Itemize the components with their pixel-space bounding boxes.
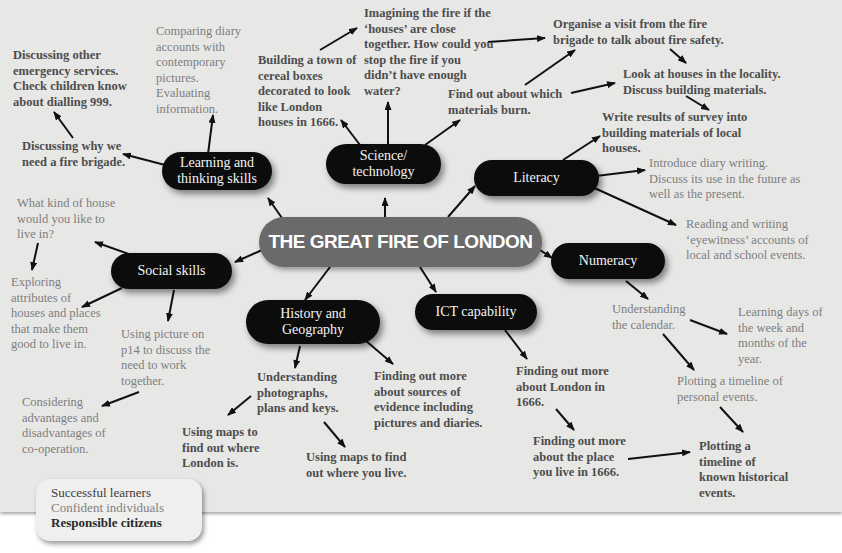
node-learning-thinking: Learning and thinking skills [162,152,272,190]
note-eyewitness: Reading and writing ‘eyewitness’ account… [686,217,811,264]
note-cooperation: Considering advantages and disadvantages… [22,395,122,457]
node-label: Learning and thinking skills [169,155,265,187]
node-ict-capability: ICT capability [415,294,537,330]
note-organise-visit: Organise a visit from the fire brigade t… [553,17,738,48]
note-sources-evidence: Finding out more about sources of eviden… [374,369,489,431]
legend-confident-individuals: Confident individuals [51,500,202,515]
note-write-results: Write results of survey into building ma… [602,110,752,157]
node-label: Science/ technology [344,148,424,180]
node-label: Numeracy [579,253,637,269]
node-label: Literacy [513,170,560,186]
note-cereal-boxes: Building a town of cereal boxes decorate… [258,53,358,131]
note-picture-p14: Using picture on p14 to discuss the need… [121,327,217,389]
node-label: Social skills [137,263,205,279]
node-history-geography: History and Geography [246,300,380,344]
central-topic-label: THE GREAT FIRE OF LONDON [268,231,532,253]
node-literacy: Literacy [474,160,599,196]
note-look-at-houses: Look at houses in the locality. Discuss … [623,67,793,98]
note-timeline-personal: Plotting a timeline of personal events. [677,374,807,405]
note-days-of-week: Learning days of the week and months of … [738,305,833,367]
node-social-skills: Social skills [111,253,232,289]
node-label: History and Geography [263,306,363,338]
note-maps-london: Using maps to find out where London is. [182,425,272,472]
curriculum-aims-legend: Successful learners Confident individual… [36,479,202,541]
note-diary-compare: Comparing diary accounts with contempora… [156,24,246,117]
note-imagining-fire: Imagining the fire if the ‘houses’ are c… [364,6,494,99]
node-numeracy: Numeracy [551,243,665,279]
legend-responsible-citizens: Responsible citizens [51,515,202,530]
note-exploring-attributes: Exploring attributes of houses and place… [11,275,105,353]
note-maps-where-you-live: Using maps to find out where you live. [306,450,416,481]
note-brigade-need: Discussing why we need a fire brigade. [22,139,134,170]
note-london-1666: Finding out more about London in 1666. [516,364,614,411]
node-science-technology: Science/ technology [326,144,441,184]
note-timeline-historical: Plotting a timeline of known historical … [699,439,794,501]
note-materials-burn: Find out about which materials burn. [448,87,573,118]
legend-successful-learners: Successful learners [51,485,202,500]
central-topic: THE GREAT FIRE OF LONDON [259,217,542,267]
note-emergency-services: Discussing other emergency services. Che… [13,48,131,110]
note-understanding-calendar: Understanding the calendar. [612,302,697,333]
note-kind-of-house: What kind of house would you like to liv… [17,196,117,243]
note-diary-writing: Introduce diary writing. Discuss its use… [649,156,809,203]
note-place-1666: Finding out more about the place you liv… [533,434,633,481]
note-understanding-photographs: Understanding photographs, plans and key… [257,370,347,417]
node-label: ICT capability [436,304,517,320]
